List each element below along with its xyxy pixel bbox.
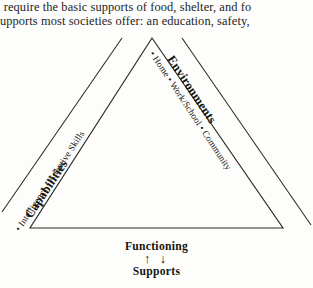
page-body-text: l require the basic supports of food, sh… xyxy=(0,0,313,28)
body-text-line-1: l require the basic supports of food, sh… xyxy=(0,1,313,15)
body-text-line-2: supports most societies offer: an educat… xyxy=(0,15,313,29)
figure-caption: Functioning ↑ ↓ Supports xyxy=(0,240,313,278)
caption-supports-label: Supports xyxy=(0,265,313,278)
left-band-line xyxy=(2,38,122,212)
